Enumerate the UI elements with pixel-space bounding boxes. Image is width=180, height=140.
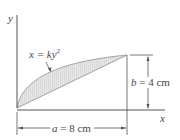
dimension-a-label: a = 8 cm — [52, 123, 91, 134]
arrowhead-right-icon — [121, 127, 126, 130]
equation-exponent: 2 — [57, 47, 61, 55]
curve-equation: x = ky2 — [29, 48, 60, 60]
equation-lhs: x = — [29, 48, 47, 60]
x-axis-label: x — [160, 113, 165, 124]
y-axis-label: y — [8, 13, 13, 24]
arrowhead-left-icon — [18, 127, 23, 130]
arrowhead-down-icon — [147, 104, 150, 109]
dimension-b-label: b = 4 cm — [131, 77, 170, 88]
equation-rhs: ky — [47, 48, 57, 60]
diagram-canvas — [0, 0, 180, 140]
arrowhead-up-icon — [147, 56, 150, 61]
